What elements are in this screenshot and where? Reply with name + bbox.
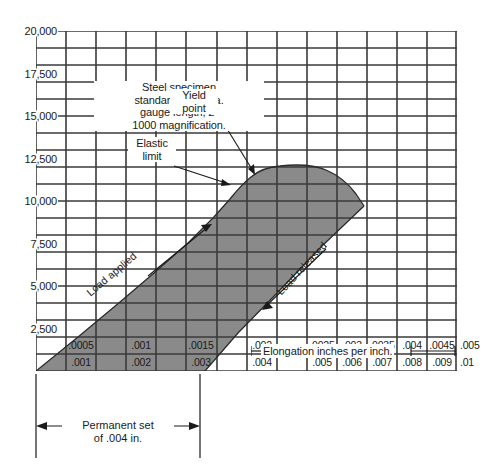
permanent-set-line2: of .004 in. [62, 432, 174, 445]
permanent-set-label: Permanent set of .004 in. [62, 419, 174, 444]
permanent-set-arrowhead-left [36, 422, 47, 430]
permanent-set-line1: Permanent set [62, 419, 174, 432]
permanent-set-arrowhead-right [189, 422, 200, 430]
permanent-set-bracket [0, 0, 488, 470]
stress-strain-chart: 20,000 17,500 15,000 12,500 10,000 7,500… [0, 0, 488, 470]
